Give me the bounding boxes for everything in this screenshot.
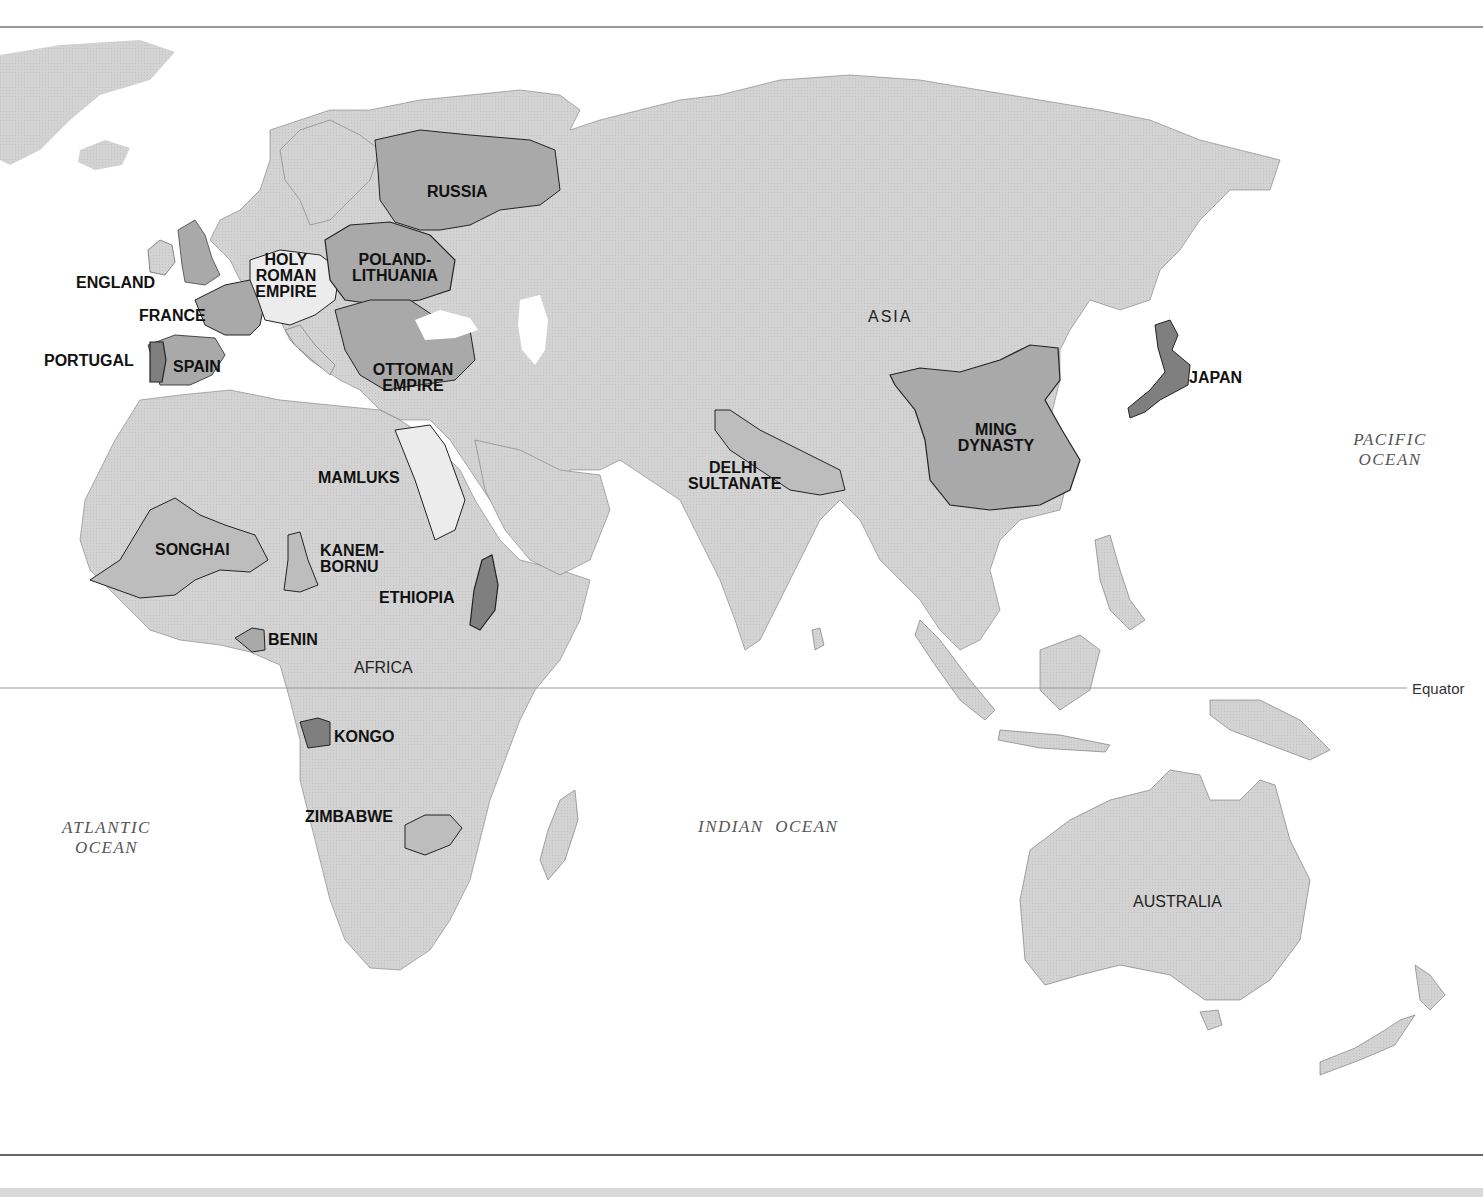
label-holy-roman-empire: HOLY ROMAN EMPIRE	[247, 252, 325, 300]
pl-line-1: POLAND-	[340, 252, 450, 268]
hre-line-3: EMPIRE	[247, 284, 325, 300]
ethiopia-line-1: ETHIOPIA	[379, 590, 455, 606]
ottoman-line-1: OTTOMAN	[360, 362, 466, 378]
japan-line-1: JAPAN	[1189, 370, 1242, 386]
benin-line-1: BENIN	[268, 632, 318, 648]
zimbabwe-line-1: ZIMBABWE	[305, 809, 393, 825]
kb-line-1: KANEM-	[320, 543, 384, 559]
label-pacific-ocean: PACIFIC OCEAN	[1335, 430, 1445, 470]
label-kongo: KONGO	[334, 729, 394, 745]
land-java	[998, 730, 1110, 752]
land-england	[178, 220, 220, 285]
land-new-guinea	[1210, 700, 1330, 760]
label-delhi-sultanate: DELHI SULTANATE	[688, 460, 778, 492]
hre-line-2: ROMAN	[247, 268, 325, 284]
label-kanem-bornu: KANEM- BORNU	[320, 543, 384, 575]
england-line-1: ENGLAND	[76, 275, 155, 291]
land-philippines	[1095, 535, 1145, 630]
label-france: FRANCE	[139, 308, 206, 324]
atlantic-line-1: ATLANTIC	[44, 818, 169, 838]
label-benin: BENIN	[268, 632, 318, 648]
bottom-bar	[0, 1188, 1483, 1197]
ming-line-2: DYNASTY	[948, 438, 1044, 454]
label-japan: JAPAN	[1189, 370, 1242, 386]
land-new-zealand-south	[1320, 1015, 1415, 1075]
label-zimbabwe: ZIMBABWE	[305, 809, 393, 825]
label-asia: ASIA	[868, 308, 912, 326]
label-atlantic-ocean: ATLANTIC OCEAN	[44, 818, 169, 858]
label-ming-dynasty: MING DYNASTY	[948, 422, 1044, 454]
land-greenland	[0, 40, 175, 165]
region-portugal	[150, 342, 166, 382]
kb-line-2: BORNU	[320, 559, 384, 575]
land-australia	[1020, 770, 1310, 1000]
label-spain: SPAIN	[173, 359, 221, 375]
kongo-line-1: KONGO	[334, 729, 394, 745]
land-borneo	[1040, 635, 1100, 710]
pacific-line-1: PACIFIC	[1335, 430, 1445, 450]
region-japan	[1128, 320, 1190, 418]
label-indian-ocean: INDIAN OCEAN	[698, 817, 838, 837]
hre-line-1: HOLY	[247, 252, 325, 268]
spain-line-1: SPAIN	[173, 359, 221, 375]
world-map	[0, 0, 1483, 1197]
pl-line-2: LITHUANIA	[340, 268, 450, 284]
label-russia: RUSSIA	[427, 184, 487, 200]
land-iceland	[78, 140, 130, 170]
label-england: ENGLAND	[76, 275, 155, 291]
label-ethiopia: ETHIOPIA	[379, 590, 455, 606]
portugal-line-1: PORTUGAL	[44, 353, 134, 369]
delhi-line-1: DELHI	[688, 460, 778, 476]
russia-line-1: RUSSIA	[427, 184, 487, 200]
label-equator: Equator	[1412, 680, 1465, 697]
label-portugal: PORTUGAL	[44, 353, 134, 369]
land-tasmania	[1200, 1010, 1222, 1030]
label-mamluks: MAMLUKS	[318, 470, 400, 486]
france-line-1: FRANCE	[139, 308, 206, 324]
label-poland-lithuania: POLAND- LITHUANIA	[340, 252, 450, 284]
label-songhai: SONGHAI	[155, 542, 230, 558]
land-sri-lanka	[812, 628, 824, 650]
songhai-line-1: SONGHAI	[155, 542, 230, 558]
label-ottoman-empire: OTTOMAN EMPIRE	[360, 362, 466, 394]
ottoman-line-2: EMPIRE	[360, 378, 466, 394]
land-ireland	[148, 240, 175, 275]
label-australia: AUSTRALIA	[1133, 893, 1222, 911]
pacific-line-2: OCEAN	[1335, 450, 1445, 470]
atlantic-line-2: OCEAN	[44, 838, 169, 858]
land-madagascar	[540, 790, 578, 880]
mamluks-line-1: MAMLUKS	[318, 470, 400, 486]
label-africa: AFRICA	[354, 659, 413, 677]
land-new-zealand	[1415, 965, 1445, 1010]
delhi-line-2: SULTANATE	[688, 476, 778, 492]
ming-line-1: MING	[948, 422, 1044, 438]
